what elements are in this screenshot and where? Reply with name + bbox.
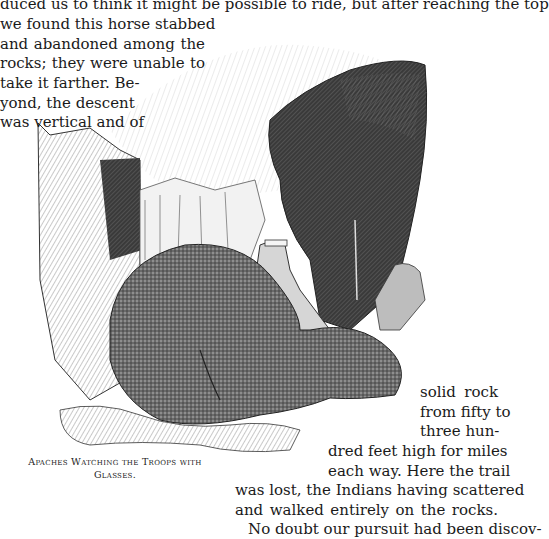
text-line: was lost, the Indians having scattered <box>235 480 498 500</box>
figure-caption: Apaches Watching the Troops with Glasses… <box>10 455 220 481</box>
text-line: take it farther. Be- <box>0 73 128 93</box>
text-line: rocks; they were unable to <box>0 53 205 73</box>
text-line: each way. Here the trail <box>328 461 498 481</box>
text-line: from fifty to <box>420 402 498 422</box>
caption-line-1: Apaches Watching the Troops with <box>10 455 220 468</box>
text-line: dred feet high for miles <box>328 441 498 461</box>
text-line: solid rock <box>420 382 498 402</box>
text-line: duced us to think it might be possible t… <box>0 0 498 14</box>
text-line: and walked entirely on the rocks. <box>235 500 498 520</box>
caption-line-2: Glasses. <box>10 468 220 481</box>
text-line: three hun- <box>420 421 498 441</box>
text-line: was vertical and of <box>0 112 128 132</box>
text-line: No doubt our pursuit had been discov- <box>248 519 498 539</box>
text-line: yond, the descent <box>0 93 128 113</box>
text-line: and abandoned among the <box>0 34 205 54</box>
text-line: we found this horse stabbed <box>0 14 205 34</box>
